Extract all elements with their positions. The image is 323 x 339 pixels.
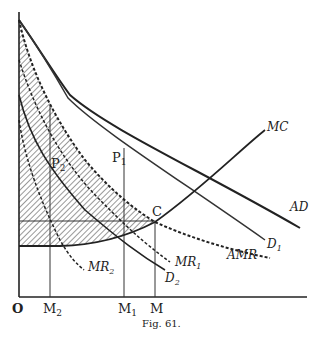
label-ad: AD <box>289 200 309 214</box>
label-d2: D2 <box>164 271 180 287</box>
label-mc: MC <box>266 120 288 134</box>
tick-m2: M2 <box>43 301 62 318</box>
tick-m1: M1 <box>118 301 137 318</box>
origin-label: O <box>12 301 23 316</box>
label-amr: AMR <box>226 248 257 262</box>
label-d1: D1 <box>266 237 282 253</box>
label-mr2: MR2 <box>87 260 114 276</box>
monopoly-diagram: O M2 M1 M P1 P2 C MC AD D1 D2 AMR MR1 MR… <box>0 0 323 339</box>
label-mr1: MR1 <box>174 255 201 271</box>
figure-caption: Fig. 61. <box>142 318 181 329</box>
tick-m: M <box>150 301 163 316</box>
point-c: C <box>152 204 162 219</box>
